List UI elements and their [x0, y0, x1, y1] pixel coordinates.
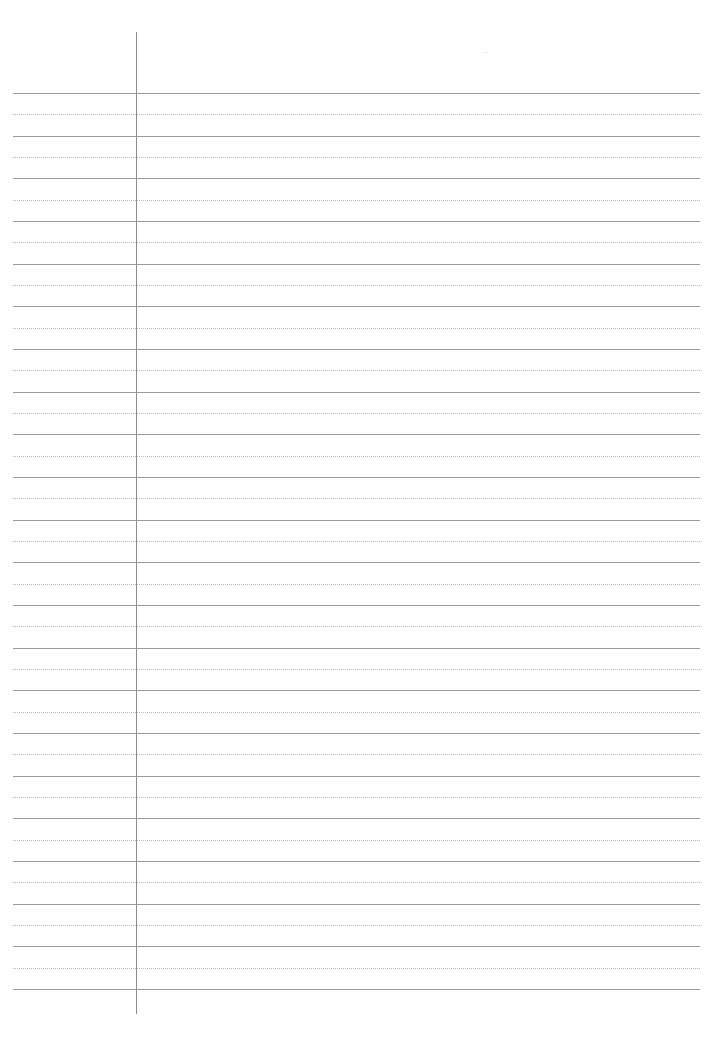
- dotted-rule: [13, 925, 700, 926]
- dotted-rule: [13, 754, 700, 755]
- dotted-rule: [13, 712, 700, 713]
- solid-rule: [13, 136, 700, 137]
- dotted-rule: [13, 797, 700, 798]
- bleed-mark: [485, 52, 487, 53]
- solid-rule: [13, 349, 700, 350]
- solid-rule: [13, 861, 700, 862]
- solid-rule: [13, 264, 700, 265]
- dotted-rule: [13, 370, 700, 371]
- solid-rule: [13, 776, 700, 777]
- dotted-rule: [13, 882, 700, 883]
- solid-rule: [13, 392, 700, 393]
- dotted-rule: [13, 584, 700, 585]
- dotted-rule: [13, 413, 700, 414]
- dotted-rule: [13, 968, 700, 969]
- dotted-rule: [13, 456, 700, 457]
- solid-rule: [13, 818, 700, 819]
- solid-rule: [13, 306, 700, 307]
- solid-rule: [13, 178, 700, 179]
- solid-rule: [13, 946, 700, 947]
- dotted-rule: [13, 626, 700, 627]
- solid-rule: [13, 562, 700, 563]
- dotted-rule: [13, 157, 700, 158]
- dotted-rule: [13, 669, 700, 670]
- solid-rule: [13, 477, 700, 478]
- solid-rule: [13, 690, 700, 691]
- dotted-rule: [13, 498, 700, 499]
- solid-rule: [13, 648, 700, 649]
- dotted-rule: [13, 541, 700, 542]
- dotted-rule: [13, 285, 700, 286]
- solid-rule: [13, 733, 700, 734]
- solid-rule: [13, 904, 700, 905]
- dotted-rule: [13, 328, 700, 329]
- notebook-page: [0, 0, 719, 1050]
- dotted-rule: [13, 840, 700, 841]
- solid-rule: [13, 520, 700, 521]
- dotted-rule: [13, 114, 700, 115]
- solid-rule: [13, 989, 700, 990]
- solid-rule: [13, 605, 700, 606]
- dotted-rule: [13, 242, 700, 243]
- solid-rule: [13, 434, 700, 435]
- solid-rule: [13, 93, 700, 94]
- margin-line: [136, 32, 137, 1014]
- solid-rule: [13, 221, 700, 222]
- dotted-rule: [13, 200, 700, 201]
